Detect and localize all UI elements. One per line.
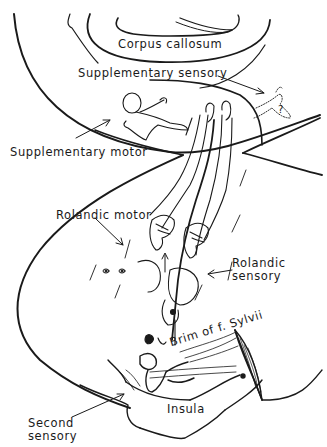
arrow-rolandic-motor [95, 218, 123, 245]
rolandic-gyri [138, 101, 232, 345]
arrow-second-sensory [72, 394, 124, 417]
label-second-sensory: Second sensory [28, 417, 77, 443]
label-supplementary-sensory: Supplementary sensory [78, 67, 227, 80]
medial-cortex-outline [14, 14, 320, 153]
label-rolandic-motor: Rolandic motor [56, 209, 151, 222]
label-insula: Insula [167, 403, 205, 416]
label-question-mark: ? [278, 103, 284, 116]
sylvian-region [80, 330, 322, 438]
label-rolandic-sensory: Rolandic sensory [232, 257, 286, 283]
label-supplementary-motor: Supplementary motor [10, 146, 148, 159]
brain-diagram: Corpus callosum Supplementary sensory ? … [0, 0, 327, 447]
label-corpus-callosum: Corpus callosum [118, 38, 222, 51]
corpus-callosum-outline [116, 18, 232, 36]
hemisphere-junction [18, 155, 184, 408]
eye-icons [103, 269, 125, 273]
supplementary-motor-figure [123, 93, 192, 140]
